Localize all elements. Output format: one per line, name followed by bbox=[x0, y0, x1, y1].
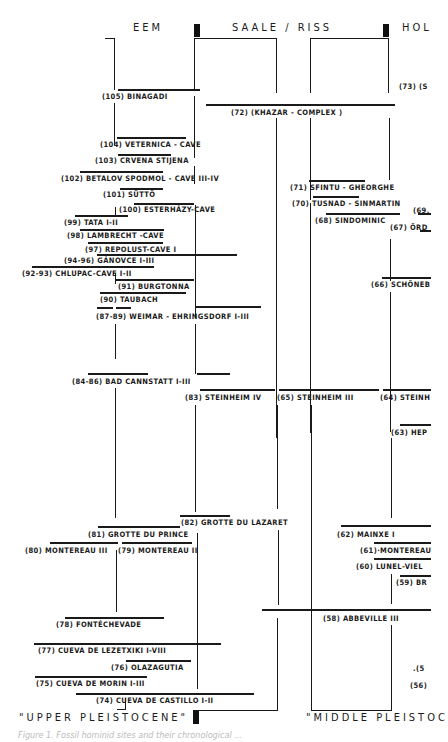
site-label-104: (104) VETERNICA - CAVE bbox=[100, 140, 201, 149]
period-header-eem: EEM bbox=[133, 21, 163, 34]
site-label-73: (73) (S bbox=[399, 82, 428, 91]
site-label-79: (79) MONTEREAU II bbox=[118, 546, 198, 555]
site-label-59: (59) BR bbox=[396, 578, 427, 587]
site-label-91: (91) BURGTONNA bbox=[118, 282, 190, 291]
site-label-74: (74) CUEVA DE CASTILLO I-II bbox=[96, 696, 213, 705]
site-label-103: (103) CRVENA STIJENA bbox=[95, 156, 189, 165]
site-label-72: (72) (KHAZAR - COMPLEX ) bbox=[231, 108, 342, 117]
site-label-77: (77) CUEVA DE LEZETXIKI I-VIII bbox=[38, 646, 166, 655]
site-label-63: (63) HEP bbox=[391, 428, 427, 437]
site-label-60: (60) LUNEL-VIEL bbox=[356, 562, 423, 571]
site-label-92-93: (92-93) CHLUPAC-CAVE I-II bbox=[22, 269, 132, 278]
site-label-100: (100) ESTERHÁZY-CAVE bbox=[119, 205, 215, 214]
figure-caption: Figure 1. Fossil hominid sites and their… bbox=[18, 730, 242, 740]
site-label-76: (76) OLAZAGUTIA bbox=[111, 663, 184, 672]
site-label-82: (82) GROTTE DU LAZARET bbox=[181, 518, 288, 527]
site-label-97: (97) REPOLUST-CAVE I bbox=[85, 245, 176, 254]
site-label-78: (78) FONTÉCHEVADE bbox=[56, 620, 141, 629]
site-label-105: (105) BINAGADI bbox=[102, 92, 168, 101]
footer-middle-pleistocene: "MIDDLE PLEISTOC bbox=[306, 711, 448, 724]
site-label-69: (69. bbox=[413, 206, 430, 215]
site-label-56: (56) bbox=[410, 681, 427, 690]
boundary-marker-bottom bbox=[193, 710, 199, 724]
site-label-98: (98) LAMBRECHT -CAVE bbox=[67, 231, 164, 240]
site-label-62: (62) MAINXE I bbox=[337, 530, 395, 539]
site-label-61: (61)·MONTEREAU bbox=[360, 546, 431, 555]
boundary-marker-eem-saale bbox=[194, 24, 200, 37]
site-label-71: (71) SFINTU - GHEORGHE bbox=[290, 183, 394, 192]
site-label-99: (99) TATA I-II bbox=[64, 218, 118, 227]
site-label-80: (80) MONTEREAU III bbox=[25, 546, 108, 555]
site-label-81: (81) GROTTE DU PRINCE bbox=[88, 530, 188, 539]
site-label-75: (75) CUEVA DE MORIN I-III bbox=[36, 679, 145, 688]
period-header-saale-riss: SAALE / RISS bbox=[232, 21, 332, 34]
period-header-hol: HOL bbox=[402, 21, 432, 34]
site-label-68: (68) SINDOMINIC bbox=[315, 216, 386, 225]
site-label-83: (83) STEINHEIM IV bbox=[185, 393, 262, 402]
site-label-94-96: (94-96) GÁNOVCE I-III bbox=[64, 256, 154, 265]
site-label-65: (65) STEINHEIM III bbox=[277, 393, 354, 402]
footer-upper-pleistocene: "UPPER PLEISTOCENE" bbox=[19, 711, 188, 724]
site-label-67: (67) ÖRD bbox=[390, 223, 428, 232]
site-label-66: (66) SCHÖNEB bbox=[371, 280, 430, 289]
site-label-84-86: (84-86) BAD CANNSTATT I-III bbox=[72, 377, 191, 386]
site-label-70: (70) TUSNAD - SINMARTIN bbox=[292, 199, 401, 208]
site-label-102: (102) BETALOV SPODMOL - CAVE III-IV bbox=[61, 174, 219, 183]
boundary-marker-saale-hol bbox=[383, 24, 389, 37]
site-label-101: (101) SÜTTÖ bbox=[103, 190, 155, 199]
site-label-64: (64) STEINH bbox=[380, 393, 430, 402]
site-label-87-89: (87-89) WEIMAR - EHRINGSDORF I-III bbox=[96, 312, 249, 321]
site-label-58: (58) ABBEVILLE III bbox=[323, 614, 399, 623]
site-label-90: (90) TAUBACH bbox=[100, 295, 158, 304]
site-label-57: .(5 bbox=[413, 664, 425, 673]
